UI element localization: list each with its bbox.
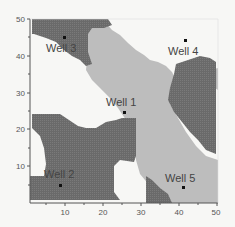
x-tick-label-50: 50	[212, 208, 221, 217]
well-1-label: Well 1	[106, 96, 136, 108]
well-4-marker	[184, 39, 187, 42]
y-tick-label-50: 50	[16, 15, 25, 24]
y-tick-label-30: 30	[16, 89, 25, 98]
y-tick-label-40: 40	[16, 52, 25, 61]
y-tick-label-20: 20	[16, 125, 25, 134]
well-5-label: Well 5	[165, 172, 195, 184]
well-2-label: Well 2	[44, 168, 74, 180]
x-tick-label-40: 40	[175, 208, 184, 217]
well-5-marker	[182, 186, 185, 189]
well-3-marker	[63, 36, 66, 39]
well-4-label: Well 4	[168, 45, 198, 57]
x-tick-label-20: 20	[99, 208, 108, 217]
y-tick-label-10: 10	[16, 162, 25, 171]
x-tick-label-10: 10	[61, 208, 70, 217]
x-tick-label-30: 30	[137, 208, 146, 217]
well-3-label: Well 3	[46, 42, 76, 54]
well-1-marker	[123, 111, 126, 114]
well-2-marker	[59, 184, 62, 187]
well-zone-chart: 50 40 30 20 10 10 20 30 40 50 Well 1 Wel…	[0, 0, 235, 227]
